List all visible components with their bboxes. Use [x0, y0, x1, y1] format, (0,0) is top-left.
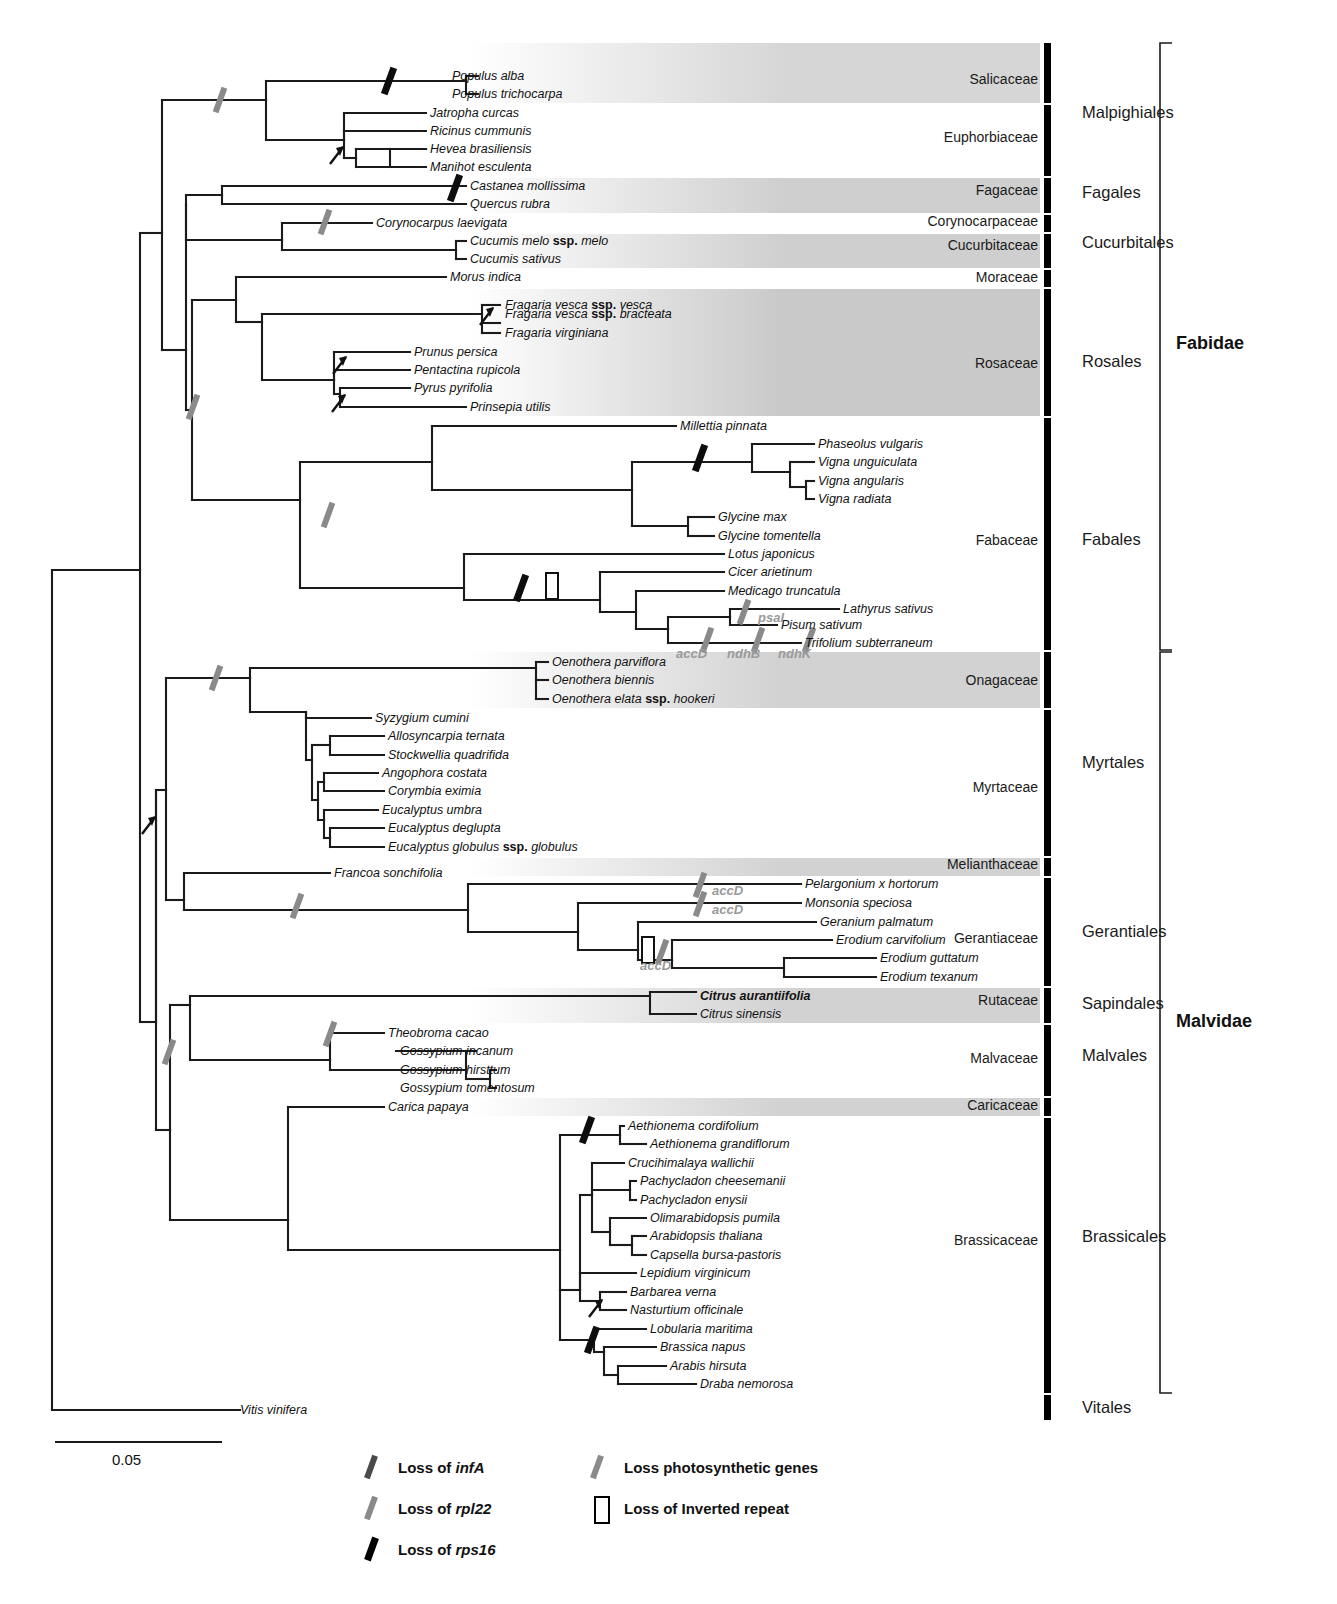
tip-label: Allosyncarpia ternata [388, 730, 505, 743]
family-bracket-bar [1044, 1025, 1051, 1096]
phylogenetic-tree-figure: Populus albaPopulus trichocarpaJatropha … [0, 0, 1337, 1604]
tip-label: Manihot esculenta [430, 161, 531, 174]
family-label: Myrtaceae [973, 780, 1038, 794]
family-bracket-bar [1044, 270, 1051, 287]
tip-label: Citrus aurantiifolia [700, 990, 810, 1003]
tip-label: Pachycladon enysii [640, 1194, 747, 1207]
family-label: Caricaceae [967, 1098, 1038, 1112]
tip-label: Eucalyptus deglupta [388, 822, 501, 835]
clade-bracket [1160, 43, 1172, 650]
order-label: Malpighiales [1082, 104, 1174, 121]
order-label: Brassicales [1082, 1228, 1166, 1245]
clade-label: Fabidae [1176, 334, 1244, 352]
legend-label-loss-inverted-repeat: Loss of Inverted repeat [624, 1501, 789, 1516]
tip-label: Nasturtium officinale [630, 1304, 743, 1317]
family-bracket-bar [1044, 878, 1051, 986]
tip-label: Glycine tomentella [718, 530, 821, 543]
family-bracket-bar [1044, 215, 1051, 232]
order-label: Vitales [1082, 1399, 1131, 1416]
tip-label: Phaseolus vulgaris [818, 438, 923, 451]
tip-label: Castanea mollissima [470, 180, 585, 193]
tip-label: Pyrus pyrifolia [414, 382, 493, 395]
gene-loss-label: accD [712, 903, 743, 916]
order-label: Myrtales [1082, 754, 1144, 771]
family-bracket-bar [1044, 988, 1051, 1023]
tip-label: Lobularia maritima [650, 1323, 753, 1336]
branch-marker-arrow [333, 356, 347, 374]
family-bracket-bar [1044, 1118, 1051, 1393]
family-bracket-bar [1044, 858, 1051, 876]
family-label: Brassicaceae [954, 1233, 1038, 1247]
family-label: Corynocarpaceae [927, 214, 1038, 228]
tip-label: Glycine max [718, 511, 787, 524]
scale-bar-label: 0.05 [112, 1452, 141, 1467]
branch-marker-rps16 [447, 174, 463, 203]
order-label: Rosales [1082, 353, 1142, 370]
clade-label: Malvidae [1176, 1012, 1252, 1030]
gene-loss-label: accD [640, 959, 671, 972]
tip-label: Hevea brasiliensis [430, 143, 531, 156]
family-label: Moraceae [976, 270, 1038, 284]
order-label: Sapindales [1082, 995, 1164, 1012]
tip-label: Gossypium hirsttum [400, 1064, 510, 1077]
clade-bracket [1160, 652, 1172, 1393]
tip-label: Pelargonium x hortorum [805, 878, 938, 891]
family-label: Fagaceae [976, 183, 1038, 197]
gene-loss-label: psaI [758, 611, 784, 624]
tip-label: Lotus japonicus [728, 548, 815, 561]
family-label: Cucurbitaceae [948, 238, 1038, 252]
branch-marker-photosynthetic [321, 502, 336, 528]
tip-label: Geranium palmatum [820, 916, 933, 929]
tip-label: Fragaria virginiana [505, 327, 609, 340]
branch-marker-arrow [142, 816, 156, 834]
tip-label: Lathyrus sativus [843, 603, 933, 616]
family-bracket-bar [1044, 234, 1051, 268]
family-bracket-bar [1044, 710, 1051, 856]
tip-label: Syzygium cumini [375, 712, 469, 725]
tip-label: Eucalyptus umbra [382, 804, 482, 817]
family-label: Euphorbiaceae [944, 130, 1038, 144]
tip-label: Millettia pinnata [680, 420, 767, 433]
branch-marker-arrow [330, 146, 344, 164]
family-label: Onagaceae [966, 673, 1038, 687]
tip-label: Populus alba [452, 70, 524, 83]
tip-label: Barbarea verna [630, 1286, 716, 1299]
branch-marker-rps16 [513, 574, 529, 603]
tip-label: Pachycladon cheesemanii [640, 1175, 785, 1188]
tip-label: Eucalyptus globulus ssp. globulus [388, 841, 578, 854]
tip-label: Oenothera parviflora [552, 656, 666, 669]
tip-label: Cucumis sativus [470, 253, 561, 266]
gene-loss-label: ndhB [727, 647, 760, 660]
tip-label: Aethionema grandiflorum [650, 1138, 790, 1151]
tip-label: Capsella bursa-pastoris [650, 1249, 781, 1262]
family-bracket-bar [1044, 652, 1051, 708]
tip-label: Prinsepia utilis [470, 401, 551, 414]
tip-label: Carica papaya [388, 1101, 469, 1114]
tip-label: Populus trichocarpa [452, 88, 562, 101]
tip-label: Francoa sonchifolia [334, 867, 442, 880]
family-label: Melianthaceae [947, 857, 1038, 871]
order-label: Fabales [1082, 531, 1141, 548]
tip-label: Ricinus cummunis [430, 125, 531, 138]
tip-label: Arabis hirsuta [670, 1360, 746, 1373]
family-bracket-bar [1044, 418, 1051, 650]
tip-label: Aethionema cordifolium [628, 1120, 759, 1133]
branch-marker-ir-box [546, 573, 558, 599]
family-bracket-bar [1044, 1098, 1051, 1116]
tip-label: Trifolium subterraneum [805, 637, 933, 650]
tip-label: Erodium guttatum [880, 952, 979, 965]
tip-label: Brassica napus [660, 1341, 745, 1354]
tip-label: Pisum sativum [781, 619, 862, 632]
legend-label-loss-photosynthetic: Loss photosynthetic genes [624, 1460, 818, 1475]
order-label: Fagales [1082, 184, 1141, 201]
gene-loss-label: accD [676, 647, 707, 660]
tip-label: Oenothera elata ssp. hookeri [552, 693, 715, 706]
family-bracket-bar [1044, 178, 1051, 213]
legend-label-loss-rps16: Loss of rps16 [398, 1542, 496, 1557]
family-bracket-bar [1044, 43, 1051, 103]
tip-label: Medicago truncatula [728, 585, 841, 598]
legend-label-loss-rpl22: Loss of rpl22 [398, 1501, 491, 1516]
branch-marker-rps16 [692, 444, 708, 473]
legend-label-loss-infa: Loss of infA [398, 1460, 485, 1475]
tip-label: Crucihimalaya wallichii [628, 1157, 754, 1170]
